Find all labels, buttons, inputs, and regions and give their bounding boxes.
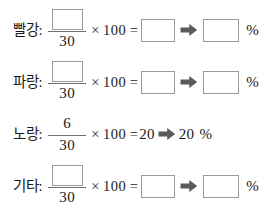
equals-symbol: = [130, 179, 138, 194]
row-label: 빨강: [13, 23, 42, 38]
multiplier-value: 100 [103, 179, 126, 194]
result-blank-input[interactable] [141, 19, 175, 42]
percent-value: 20 [179, 127, 195, 142]
fraction-denominator: 30 [59, 188, 75, 206]
right-arrow-icon [180, 177, 198, 195]
worksheet-row: 파랑: 30 × 100 = % [0, 56, 280, 108]
row-label: 기타: [13, 179, 42, 194]
equals-symbol: = [130, 23, 138, 38]
worksheet-row: 노랑: 6 30 × 100 = 20 20 % [0, 108, 280, 160]
numerator-blank-input[interactable] [52, 165, 83, 186]
right-arrow-icon [158, 125, 176, 143]
equals-symbol: = [130, 127, 138, 142]
fraction-numerator [52, 165, 83, 186]
percent-symbol: % [246, 23, 259, 38]
worksheet-row: 빨강: 30 × 100 = % [0, 4, 280, 56]
right-arrow-icon [180, 21, 198, 39]
multiplication-symbol: × [91, 23, 99, 38]
row-label: 노랑: [13, 127, 42, 142]
fraction-numerator: 6 [63, 113, 71, 134]
fraction: 30 [48, 9, 86, 50]
percent-symbol: % [246, 75, 259, 90]
percent-symbol: % [199, 127, 212, 142]
numerator-blank-input[interactable] [52, 61, 83, 82]
fraction-numerator [52, 61, 83, 82]
worksheet-row: 기타: 30 × 100 = % [0, 160, 280, 212]
fraction: 30 [48, 165, 86, 206]
row-label: 파랑: [13, 75, 42, 90]
multiplier-value: 100 [103, 127, 126, 142]
result-blank-input[interactable] [141, 71, 175, 94]
percent-blank-input[interactable] [203, 175, 239, 198]
percentage-worksheet: 빨강: 30 × 100 = % 파랑: 30 × 1 [0, 0, 280, 217]
result-value: 20 [139, 127, 155, 142]
fraction-denominator: 30 [59, 32, 75, 50]
multiplication-symbol: × [91, 179, 99, 194]
percent-blank-input[interactable] [203, 19, 239, 42]
fraction: 30 [48, 61, 86, 102]
percent-blank-input[interactable] [203, 71, 239, 94]
multiplication-symbol: × [91, 75, 99, 90]
fraction: 6 30 [48, 113, 86, 154]
result-blank-input[interactable] [141, 175, 175, 198]
fraction-numerator [52, 9, 83, 30]
fraction-denominator: 30 [59, 136, 75, 154]
right-arrow-icon [180, 73, 198, 91]
percent-symbol: % [246, 179, 259, 194]
multiplier-value: 100 [103, 75, 126, 90]
numerator-blank-input[interactable] [52, 9, 83, 30]
multiplication-symbol: × [91, 127, 99, 142]
equals-symbol: = [130, 75, 138, 90]
fraction-denominator: 30 [59, 84, 75, 102]
numerator-value: 6 [63, 116, 71, 131]
multiplier-value: 100 [103, 23, 126, 38]
